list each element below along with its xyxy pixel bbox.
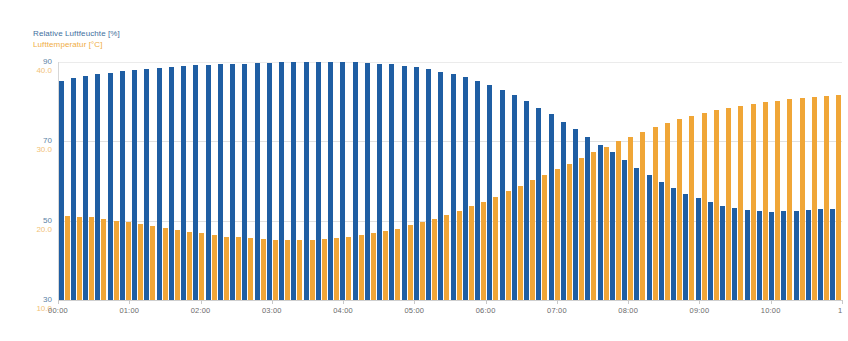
bar-temperature bbox=[297, 240, 302, 300]
bar-temperature bbox=[150, 226, 155, 300]
bar-humidity bbox=[634, 168, 639, 300]
x-tick-mark bbox=[414, 300, 415, 304]
y-tick-90: 9040.0 bbox=[6, 57, 52, 75]
bar-humidity bbox=[230, 64, 235, 300]
plot-area bbox=[58, 62, 842, 300]
bar-temperature bbox=[383, 231, 388, 300]
x-tick-label: 06:00 bbox=[476, 306, 496, 315]
bar-temperature bbox=[604, 147, 609, 300]
bar-humidity bbox=[157, 68, 162, 300]
y-tick-humidity-value: 70 bbox=[6, 136, 52, 145]
x-tick-label: 03:00 bbox=[262, 306, 282, 315]
bar-temperature bbox=[628, 137, 633, 300]
bar-temperature bbox=[432, 219, 437, 300]
bar-humidity bbox=[696, 198, 701, 300]
y-tick-temperature-value: 40.0 bbox=[6, 66, 52, 75]
bar-temperature bbox=[199, 233, 204, 300]
bar-temperature bbox=[481, 202, 486, 300]
bar-temperature bbox=[371, 233, 376, 300]
bar-humidity bbox=[806, 210, 811, 300]
bar-humidity bbox=[340, 62, 345, 300]
bar-temperature bbox=[77, 217, 82, 300]
bar-temperature bbox=[126, 222, 131, 300]
bar-temperature bbox=[408, 225, 413, 300]
bar-humidity bbox=[426, 69, 431, 300]
bar-temperature bbox=[334, 238, 339, 300]
x-tick-label: 10:00 bbox=[761, 306, 781, 315]
bar-temperature bbox=[273, 240, 278, 300]
bar-temperature bbox=[616, 141, 621, 300]
x-tick-label: 1 bbox=[838, 306, 842, 315]
bar-humidity bbox=[83, 76, 88, 300]
bar-temperature bbox=[420, 222, 425, 300]
x-tick-mark bbox=[201, 300, 202, 304]
bar-humidity bbox=[144, 69, 149, 300]
bar-temperature bbox=[530, 180, 535, 300]
bar-humidity bbox=[512, 95, 517, 300]
bar-temperature bbox=[763, 102, 768, 300]
bar-humidity bbox=[683, 194, 688, 300]
bar-humidity bbox=[573, 129, 578, 300]
bar-humidity bbox=[108, 73, 113, 300]
bar-temperature bbox=[138, 224, 143, 300]
bar-temperature bbox=[101, 219, 106, 300]
y-tick-humidity-value: 90 bbox=[6, 57, 52, 66]
bar-temperature bbox=[824, 96, 829, 300]
bar-humidity bbox=[242, 64, 247, 300]
bar-temperature bbox=[689, 116, 694, 300]
bar-temperature bbox=[285, 240, 290, 300]
bar-temperature bbox=[224, 237, 229, 300]
bar-humidity bbox=[475, 81, 480, 300]
bar-humidity bbox=[598, 145, 603, 300]
x-tick-mark bbox=[486, 300, 487, 304]
bar-temperature bbox=[738, 106, 743, 300]
bar-temperature bbox=[187, 232, 192, 300]
x-tick-label: 02:00 bbox=[191, 306, 211, 315]
bar-temperature bbox=[518, 186, 523, 300]
y-axis-labels: 9040.07030.05020.03010.0 bbox=[2, 0, 52, 341]
bar-humidity bbox=[585, 137, 590, 300]
bar-humidity bbox=[365, 63, 370, 300]
bar-temperature bbox=[714, 110, 719, 300]
bar-temperature bbox=[579, 158, 584, 300]
bar-temperature bbox=[444, 215, 449, 300]
bar-humidity bbox=[389, 64, 394, 300]
y-tick-30: 3010.0 bbox=[6, 295, 52, 313]
bar-humidity bbox=[218, 64, 223, 300]
x-tick-label: 04:00 bbox=[333, 306, 353, 315]
y-axis-line bbox=[58, 62, 59, 301]
bar-humidity bbox=[745, 210, 750, 300]
bar-temperature bbox=[665, 123, 670, 300]
y-tick-50: 5020.0 bbox=[6, 216, 52, 234]
bar-humidity bbox=[402, 66, 407, 300]
bar-temperature bbox=[506, 191, 511, 300]
bar-humidity bbox=[438, 72, 443, 300]
bar-humidity bbox=[193, 65, 198, 300]
bar-humidity bbox=[659, 182, 664, 300]
x-tick-mark bbox=[842, 300, 843, 304]
bar-temperature bbox=[175, 230, 180, 300]
bar-temperature bbox=[322, 239, 327, 300]
bar-temperature bbox=[555, 169, 560, 300]
x-tick-label: 05:00 bbox=[404, 306, 424, 315]
bar-temperature bbox=[346, 237, 351, 300]
bar-temperature bbox=[787, 99, 792, 300]
bar-temperature bbox=[310, 240, 315, 300]
bar-humidity bbox=[769, 212, 774, 300]
y-tick-humidity-value: 50 bbox=[6, 216, 52, 225]
bar-temperature bbox=[836, 95, 841, 300]
bar-humidity bbox=[647, 175, 652, 300]
bar-temperature bbox=[359, 235, 364, 300]
bar-humidity bbox=[549, 114, 554, 300]
bar-humidity bbox=[610, 152, 615, 300]
bar-temperature bbox=[212, 235, 217, 300]
x-tick-label: 09:00 bbox=[690, 306, 710, 315]
bar-humidity bbox=[353, 62, 358, 300]
bar-humidity bbox=[328, 62, 333, 300]
bar-humidity bbox=[487, 85, 492, 300]
bar-humidity bbox=[267, 63, 272, 300]
y-tick-70: 7030.0 bbox=[6, 136, 52, 154]
bar-humidity bbox=[671, 188, 676, 300]
bar-humidity bbox=[120, 71, 125, 300]
bar-temperature bbox=[702, 113, 707, 300]
